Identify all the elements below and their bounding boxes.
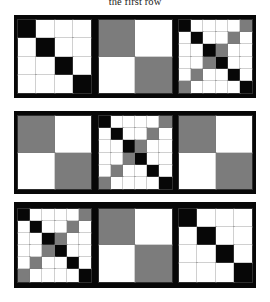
matrix-cell [79, 257, 91, 269]
matrix-cell [79, 233, 91, 245]
matrix-cell [18, 20, 36, 38]
matrix-cell [73, 20, 91, 38]
matrix-cell [18, 116, 55, 153]
matrix-cell [18, 221, 30, 233]
matrix-cell [73, 57, 91, 75]
matrix-cell [55, 257, 67, 269]
matrix-cell [99, 140, 111, 152]
matrix-cell [216, 69, 228, 81]
matrix-cell [55, 75, 73, 93]
matrix-cell [179, 32, 191, 44]
matrix-cell [240, 20, 252, 32]
matrix-cell [228, 57, 240, 69]
panel-3-1 [18, 209, 91, 282]
matrix-cell [36, 75, 54, 93]
matrix-cell [55, 245, 67, 257]
matrix-cell [216, 57, 228, 69]
matrix-cell [135, 245, 172, 282]
matrix-cell [240, 81, 252, 93]
matrix-cell [240, 32, 252, 44]
matrix-cell [179, 69, 191, 81]
matrix-cell [159, 153, 171, 165]
matrix-cell [67, 209, 79, 221]
matrix-cell [42, 221, 54, 233]
matrix-cell [197, 245, 215, 263]
matrix-cell [135, 165, 147, 177]
matrix-cell [216, 32, 228, 44]
matrix-cell [159, 116, 171, 128]
matrix-cell [135, 128, 147, 140]
matrix-cell [135, 140, 147, 152]
matrix-cell [179, 116, 216, 153]
matrix-cell [179, 227, 197, 245]
matrix-cell [99, 177, 111, 189]
matrix-cell [123, 128, 135, 140]
panel-1-3 [179, 20, 252, 93]
panel-2-1 [18, 116, 91, 189]
matrix-cell [216, 20, 228, 32]
matrix-cell [135, 57, 172, 94]
matrix-cell [179, 245, 197, 263]
matrix-cell [228, 32, 240, 44]
matrix-cell [55, 269, 67, 281]
matrix-cell [191, 44, 203, 56]
matrix-cell [18, 75, 36, 93]
matrix-cell [203, 57, 215, 69]
row-1 [14, 15, 256, 98]
matrix-cell [18, 269, 30, 281]
matrix-cell [30, 257, 42, 269]
matrix-cell [42, 233, 54, 245]
matrix-cell [55, 57, 73, 75]
matrix-cell [42, 245, 54, 257]
matrix-cell [111, 128, 123, 140]
matrix-cell [216, 227, 234, 245]
matrix-cell [240, 57, 252, 69]
matrix-cell [179, 57, 191, 69]
matrix-cell [79, 221, 91, 233]
matrix-cell [55, 221, 67, 233]
matrix-cell [73, 38, 91, 56]
panel-3-2 [99, 209, 172, 282]
matrix-cell [79, 209, 91, 221]
matrix-cell [216, 263, 234, 281]
matrix-cell [228, 20, 240, 32]
matrix-cell [228, 69, 240, 81]
matrix-cell [55, 116, 92, 153]
matrix-cell [30, 221, 42, 233]
matrix-cell [42, 209, 54, 221]
matrix-cell [147, 165, 159, 177]
matrix-cell [42, 269, 54, 281]
matrix-cell [234, 227, 252, 245]
matrix-cell [36, 20, 54, 38]
matrix-cell [147, 116, 159, 128]
matrix-cell [123, 165, 135, 177]
matrix-cell [123, 140, 135, 152]
matrix-cell [73, 75, 91, 93]
matrix-cell [191, 81, 203, 93]
matrix-cell [123, 116, 135, 128]
matrix-cell [135, 209, 172, 246]
matrix-cell [197, 227, 215, 245]
matrix-cell [203, 20, 215, 32]
matrix-cell [18, 153, 55, 190]
matrix-cell [240, 69, 252, 81]
matrix-cell [99, 209, 136, 246]
matrix-cell [216, 245, 234, 263]
matrix-cell [228, 44, 240, 56]
row-3 [14, 202, 256, 288]
matrix-cell [99, 116, 111, 128]
matrix-cell [216, 116, 253, 153]
matrix-cell [147, 128, 159, 140]
matrix-cell [135, 177, 147, 189]
panel-2-3 [179, 116, 252, 189]
matrix-cell [234, 209, 252, 227]
matrix-cell [179, 81, 191, 93]
matrix-cell [55, 38, 73, 56]
matrix-cell [67, 221, 79, 233]
matrix-cell [99, 20, 136, 57]
matrix-cell [67, 233, 79, 245]
figure-caption: the first row [0, 0, 270, 7]
matrix-cell [191, 20, 203, 32]
matrix-cell [36, 57, 54, 75]
panel-2-2 [99, 116, 172, 189]
